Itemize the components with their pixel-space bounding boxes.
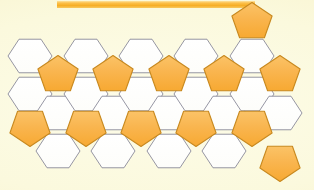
hexagon-tile [202,134,246,168]
pentagon-tile [232,3,272,38]
pentagon-tile [260,146,300,181]
hexagon-pentagon-tiling [0,0,314,190]
hexagon-tile [36,134,80,168]
tiling-canvas: Hexagon and pentagon tiling pattern [0,0,314,190]
